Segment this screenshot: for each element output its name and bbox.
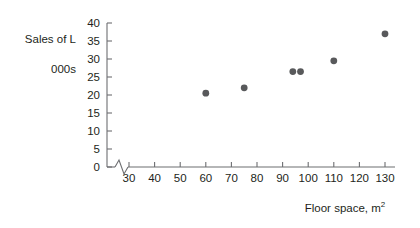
x-axis-tick-label: 120 xyxy=(350,172,369,184)
x-axis-ticks xyxy=(129,162,385,167)
x-axis-tick-label: 40 xyxy=(148,172,161,184)
x-axis-title-text: Floor space, m xyxy=(305,202,381,214)
x-axis-tick-label: 50 xyxy=(174,172,187,184)
x-axis-tick-label: 130 xyxy=(375,172,394,184)
y-axis-tick-label: 40 xyxy=(70,17,100,29)
data-point xyxy=(330,57,337,64)
x-axis-tick-label: 80 xyxy=(251,172,264,184)
x-axis-tick-label: 30 xyxy=(123,172,136,184)
data-point xyxy=(382,30,389,37)
data-points xyxy=(202,30,388,96)
data-point xyxy=(289,68,296,75)
y-axis-tick-label: 25 xyxy=(70,71,100,83)
plot-area xyxy=(0,0,420,228)
axes xyxy=(107,23,395,174)
x-axis-title: Floor space, m2 xyxy=(305,202,386,214)
y-axis-tick-label: 10 xyxy=(70,125,100,137)
x-axis-tick-label: 110 xyxy=(325,172,343,184)
data-point xyxy=(202,90,209,97)
y-axis-tick-label: 5 xyxy=(70,143,100,155)
x-axis-tick-label: 60 xyxy=(199,172,212,184)
x-axis-tick-label: 70 xyxy=(225,172,238,184)
data-point xyxy=(241,84,248,91)
x-axis-tick-label: 100 xyxy=(299,172,318,184)
data-point xyxy=(297,68,304,75)
y-axis-tick-label: 15 xyxy=(70,107,100,119)
y-axis-tick-label: 20 xyxy=(70,89,100,101)
y-axis-tick-label: 30 xyxy=(70,53,100,65)
x-axis-tick-label: 90 xyxy=(276,172,289,184)
y-axis-ticks xyxy=(107,23,112,167)
y-axis-tick-label: 35 xyxy=(70,35,100,47)
x-axis-title-exponent: 2 xyxy=(381,200,385,209)
y-axis-tick-label: 0 xyxy=(70,161,100,173)
scatter-chart: Sales of L 000s 0510152025303540 3040506… xyxy=(0,0,420,228)
